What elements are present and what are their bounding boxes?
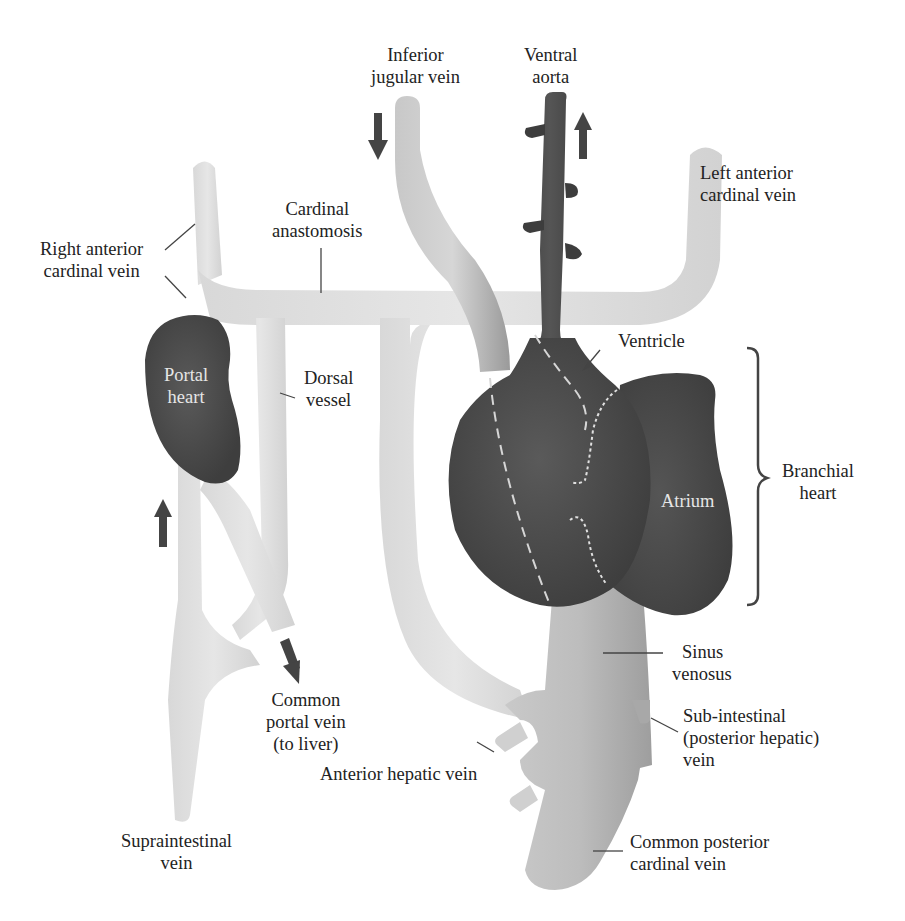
label-branchial-heart: Branchial heart [782,460,854,504]
label-inferior-jugular-vein: Inferior jugular vein [371,44,460,88]
label-supraintestinal-vein: Supraintestinal vein [121,830,232,874]
label-dorsal-vessel: Dorsal vessel [304,367,353,411]
label-common-portal-vein: Common portal vein (to liver) [266,689,346,755]
label-ventral-aorta: Ventral aorta [524,44,577,88]
label-left-anterior-cardinal-vein: Left anterior cardinal vein [700,162,796,206]
right-anterior-cardinal-vein [193,162,222,286]
label-common-posterior-cardinal-vein: Common posterior cardinal vein [630,831,769,875]
label-sub-intestinal-vein: Sub-intestinal (posterior hepatic) vein [683,705,819,771]
branchial-heart-brace [747,348,767,605]
arrow-up-icon [574,112,592,159]
label-atrium: Atrium [661,490,714,512]
label-sinus-venosus: Sinus venosus [672,641,732,685]
arrow-down-right-icon [280,638,300,684]
arrow-down-icon [368,113,388,160]
inferior-jugular-vein [395,96,510,372]
label-portal-heart: Portal heart [164,364,208,408]
label-cardinal-anastomosis: Cardinal anastomosis [272,198,362,242]
ventral-aorta [510,92,590,375]
arrow-up-icon [154,499,172,547]
label-right-anterior-cardinal-vein: Right anterior cardinal vein [40,238,143,282]
label-ventricle: Ventricle [618,330,685,352]
label-anterior-hepatic-vein: Anterior hepatic vein [320,763,477,785]
ventricle [449,335,651,607]
